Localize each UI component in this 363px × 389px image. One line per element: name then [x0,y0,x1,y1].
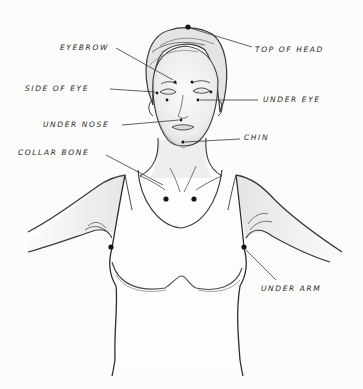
label-under-arm: UNDER ARM [261,285,321,293]
point-under-eye-left [166,99,169,102]
label-side-of-eye: SIDE OF EYE [25,85,89,93]
point-top-of-head [185,24,190,29]
point-collar-bone-left [163,196,168,201]
point-under-eye-right [197,99,200,102]
label-under-eye: UNDER EYE [263,96,321,104]
label-eyebrow: EYEBROW [60,44,109,52]
point-side-of-eye-left [156,92,159,95]
head [146,28,227,148]
label-top-of-head: TOP OF HEAD [255,46,324,54]
torso [107,168,246,376]
left-arm [28,175,126,252]
point-under-nose [180,119,183,122]
right-arm [236,175,342,262]
leader-under-arm [246,250,276,280]
point-eyebrow-left [174,81,177,84]
body-illustration [0,0,363,389]
point-eyebrow-right [191,81,194,84]
point-side-of-eye-right [210,91,213,94]
point-chin [181,140,184,143]
point-under-arm-right [241,244,246,249]
label-under-nose: UNDER NOSE [43,121,109,129]
label-collar-bone: COLLAR BONE [18,149,89,157]
point-collar-bone-right [191,196,196,201]
label-chin: CHIN [244,134,269,142]
point-under-arm-left [108,244,113,249]
